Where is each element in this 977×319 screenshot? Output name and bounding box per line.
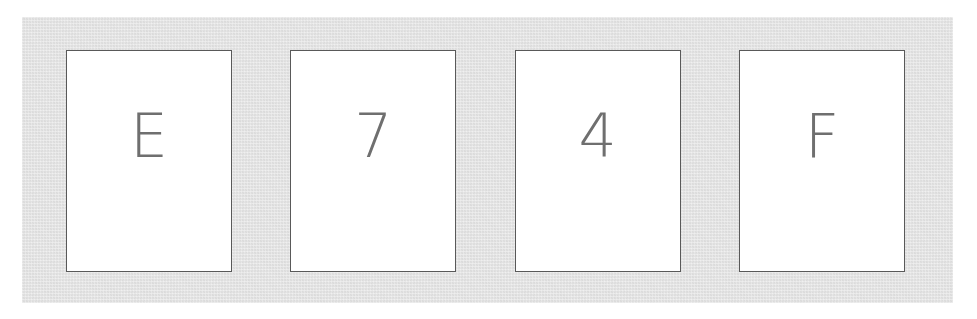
card-glyph: 7 (354, 106, 392, 166)
card-glyph: E (130, 106, 168, 166)
card-tray-panel: E 7 4 F (22, 17, 953, 303)
screenshot-canvas: E 7 4 F (0, 0, 977, 319)
card-glyph: 4 (579, 106, 617, 166)
card-item[interactable]: E (66, 50, 232, 272)
card-row: E 7 4 F (66, 50, 905, 272)
card-item[interactable]: 7 (290, 50, 456, 272)
card-glyph: F (805, 106, 840, 166)
card-item[interactable]: F (739, 50, 905, 272)
card-item[interactable]: 4 (515, 50, 681, 272)
